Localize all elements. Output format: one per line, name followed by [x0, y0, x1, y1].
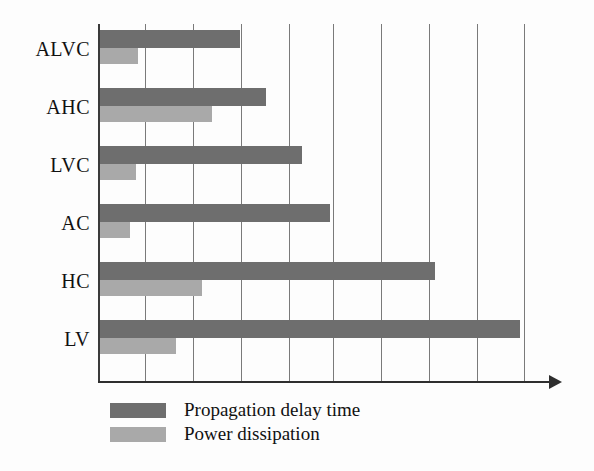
legend-swatch-power-icon [110, 427, 166, 442]
bar-delay-hc [98, 262, 435, 280]
plot-area [98, 24, 525, 382]
category-label-lv: LV [64, 328, 90, 351]
category-label-hc: HC [61, 270, 90, 293]
x-axis-line [98, 381, 553, 383]
category-label-ac: AC [61, 212, 90, 235]
bar-delay-alvc [98, 30, 240, 48]
chart-legend: Propagation delay time Power dissipation [110, 398, 360, 446]
bar-power-ac [98, 222, 130, 238]
bar-delay-lvc [98, 146, 302, 164]
legend-swatch-delay-icon [110, 403, 166, 418]
bar-delay-ac [98, 204, 330, 222]
bar-delay-ahc [98, 88, 266, 106]
category-label-alvc: ALVC [35, 38, 90, 61]
legend-label-delay: Propagation delay time [184, 399, 360, 421]
bar-delay-lv [98, 320, 520, 338]
legend-label-power: Power dissipation [184, 423, 320, 445]
bar-power-lvc [98, 164, 136, 180]
legend-item-delay: Propagation delay time [110, 398, 360, 422]
gridline-9 [524, 24, 525, 382]
y-axis-line [98, 24, 100, 382]
bar-power-lv [98, 338, 176, 354]
bar-power-hc [98, 280, 202, 296]
category-label-ahc: AHC [46, 96, 90, 119]
legend-item-power: Power dissipation [110, 422, 360, 446]
x-axis-arrow-icon [549, 375, 562, 389]
bar-power-ahc [98, 106, 212, 122]
bar-power-alvc [98, 48, 138, 64]
chart-page: ALVC AHC LVC AC HC LV Propagation delay … [0, 0, 594, 471]
category-label-lvc: LVC [50, 154, 90, 177]
